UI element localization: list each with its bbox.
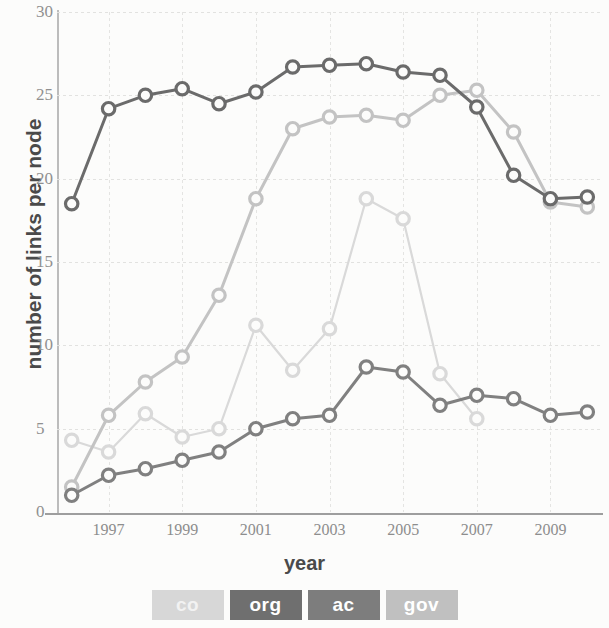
data-point-co <box>397 213 409 225</box>
data-point-org <box>66 198 78 210</box>
data-point-org <box>581 191 593 203</box>
data-point-gov <box>471 84 483 96</box>
data-point-co <box>213 423 225 435</box>
data-point-co <box>360 193 372 205</box>
data-point-org <box>471 101 483 113</box>
data-point-ac <box>397 366 409 378</box>
x-tick-label: 2005 <box>376 521 430 539</box>
data-point-org <box>176 83 188 95</box>
data-point-ac <box>102 469 114 481</box>
data-point-co <box>250 319 262 331</box>
data-point-gov <box>250 193 262 205</box>
data-point-ac <box>544 409 556 421</box>
data-point-co <box>139 408 151 420</box>
data-point-ac <box>471 389 483 401</box>
x-tick-label: 2001 <box>229 521 283 539</box>
data-point-org <box>213 98 225 110</box>
data-point-ac <box>323 409 335 421</box>
data-point-gov <box>434 89 446 101</box>
data-point-gov <box>213 289 225 301</box>
data-point-ac <box>250 423 262 435</box>
data-point-org <box>323 59 335 71</box>
data-point-org <box>287 61 299 73</box>
data-point-ac <box>360 361 372 373</box>
x-axis-title: year <box>0 552 609 575</box>
chart-screenshot: number of links per node 051015202530 19… <box>0 0 609 628</box>
data-point-org <box>250 86 262 98</box>
series-line-co <box>72 199 477 452</box>
chart-legend: coorgacgov <box>0 590 609 620</box>
data-point-gov <box>507 126 519 138</box>
data-point-ac <box>139 463 151 475</box>
data-point-ac <box>434 399 446 411</box>
series-line-gov <box>72 90 588 487</box>
data-point-gov <box>176 351 188 363</box>
data-point-org <box>507 169 519 181</box>
series-co <box>66 193 483 459</box>
x-tick-label: 1997 <box>82 521 136 539</box>
legend-item-co[interactable]: co <box>152 590 224 620</box>
data-point-org <box>434 69 446 81</box>
data-point-gov <box>360 109 372 121</box>
data-point-co <box>66 434 78 446</box>
x-axis-line <box>45 513 603 515</box>
x-tick-label: 2003 <box>303 521 357 539</box>
legend-item-gov[interactable]: gov <box>386 590 458 620</box>
data-point-org <box>102 103 114 115</box>
data-point-co <box>434 368 446 380</box>
data-point-ac <box>287 413 299 425</box>
y-axis-title: number of links per node <box>22 24 46 464</box>
data-point-ac <box>213 446 225 458</box>
series-gov <box>66 84 594 493</box>
chart-canvas <box>57 12 602 512</box>
data-point-gov <box>323 111 335 123</box>
x-tick-label: 2009 <box>523 521 577 539</box>
data-point-gov <box>397 114 409 126</box>
x-tick-label: 1999 <box>155 521 209 539</box>
data-point-ac <box>176 454 188 466</box>
plot-area <box>57 12 602 512</box>
data-point-ac <box>66 489 78 501</box>
data-point-org <box>360 58 372 70</box>
data-point-ac <box>581 406 593 418</box>
legend-item-ac[interactable]: ac <box>308 590 380 620</box>
x-tick-label: 2007 <box>450 521 504 539</box>
data-point-co <box>287 364 299 376</box>
data-point-co <box>471 413 483 425</box>
data-point-gov <box>287 123 299 135</box>
data-point-co <box>176 431 188 443</box>
data-point-gov <box>102 409 114 421</box>
data-point-co <box>102 446 114 458</box>
legend-item-org[interactable]: org <box>230 590 302 620</box>
data-point-org <box>397 66 409 78</box>
data-point-gov <box>139 376 151 388</box>
data-point-org <box>139 89 151 101</box>
data-point-ac <box>507 393 519 405</box>
data-point-org <box>544 193 556 205</box>
data-point-co <box>323 323 335 335</box>
